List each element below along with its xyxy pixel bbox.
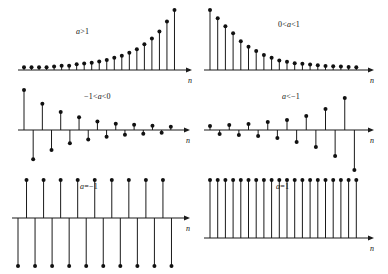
stem-dot <box>324 178 328 182</box>
stem-dot <box>95 120 99 124</box>
label-prefix: 0< <box>278 20 287 29</box>
stem-dot <box>52 64 56 68</box>
label-suffix: <−1 <box>286 92 300 101</box>
stem-dot <box>352 168 356 172</box>
exponential-sequences-figure: a>1n0<a<1n−1<a<0na<−1na=−1na=1n <box>0 0 388 274</box>
panel-a-lt-neg1: a<−1n <box>196 86 382 174</box>
stem-dot <box>300 178 304 182</box>
stem-dot <box>237 133 241 137</box>
stem-dot <box>110 178 114 182</box>
panel-a-eq-neg1-plot <box>8 176 194 270</box>
stem-dot <box>208 8 212 12</box>
x-axis-label: n <box>186 136 190 145</box>
stem-dot <box>308 63 312 67</box>
x-axis-label: n <box>186 224 190 233</box>
stem-dot <box>141 132 145 136</box>
stem-dot <box>22 65 26 69</box>
stem-dot <box>262 53 266 57</box>
panel-a-eq-1: a=1n <box>196 176 382 270</box>
stem-dot <box>50 264 54 268</box>
stem-dot <box>247 178 251 182</box>
stem-dot <box>216 16 220 20</box>
stem-dot <box>142 42 146 46</box>
panel-a-eq-neg1: a=−1n <box>8 176 194 270</box>
stem-dot <box>331 178 335 182</box>
label-prefix: −1< <box>84 92 98 101</box>
stem-dot <box>77 115 81 119</box>
stem-dot <box>123 133 127 137</box>
x-axis-arrow <box>186 67 192 72</box>
stem-dot <box>247 45 251 49</box>
panel-a-eq-neg1-label: a=−1 <box>80 182 98 191</box>
label-suffix: >1 <box>80 27 89 36</box>
stem-dot <box>254 49 258 53</box>
x-axis-arrow <box>368 235 374 240</box>
stem-dot <box>347 178 351 182</box>
stem-dot <box>293 178 297 182</box>
panel-a-gt-1-plot <box>8 6 194 84</box>
x-axis-label: n <box>188 76 192 85</box>
stem-dot <box>324 107 328 111</box>
stem-dot <box>150 37 154 41</box>
panel-neg1-lt-a-lt-0: −1<a<0n <box>8 86 194 170</box>
stem-dot <box>339 65 343 69</box>
stem-dot <box>308 178 312 182</box>
stem-dot <box>293 61 297 65</box>
stem-dot <box>218 132 222 136</box>
stem-dot <box>295 140 299 144</box>
stem-dot <box>67 64 71 68</box>
stem-dot <box>231 178 235 182</box>
label-suffix: =1 <box>280 182 289 191</box>
stem-dot <box>90 61 94 65</box>
stem-dot <box>277 58 281 62</box>
stem-dot <box>169 125 173 129</box>
stem-dot <box>97 59 101 63</box>
stem-dot <box>37 65 41 69</box>
panel-a-lt-neg1-label: a<−1 <box>282 92 300 101</box>
stem-dot <box>339 178 343 182</box>
stem-dot <box>67 264 71 268</box>
stem-dot <box>157 29 161 33</box>
stem-dot <box>16 264 20 268</box>
stem-dot <box>208 178 212 182</box>
stem-dot <box>333 154 337 158</box>
stem-dot <box>343 96 347 100</box>
stem-dot <box>227 123 231 127</box>
panel-a-gt-1-label: a>1 <box>76 27 89 36</box>
x-axis-label: n <box>370 244 374 253</box>
stem-dot <box>324 64 328 68</box>
stem-dot <box>31 157 35 161</box>
x-axis-arrow <box>368 67 374 72</box>
stem-dot <box>82 62 86 66</box>
stem-dot <box>120 54 124 58</box>
x-axis-arrow <box>184 127 190 132</box>
stem-dot <box>223 178 227 182</box>
stem-dot <box>50 148 54 152</box>
stem-dot <box>160 131 164 135</box>
stem-dot <box>216 178 220 182</box>
stem-dot <box>354 65 358 69</box>
stem-dot <box>105 135 109 139</box>
stem-dot <box>172 8 176 12</box>
stem-dot <box>314 145 318 149</box>
stem-dot <box>59 178 63 182</box>
stem-dot <box>68 141 72 145</box>
stem-dot <box>256 134 260 138</box>
label-suffix: <0 <box>102 92 111 101</box>
stem-dot <box>75 62 79 66</box>
x-axis-label: n <box>370 136 374 145</box>
stem-dot <box>101 264 105 268</box>
stem-dot <box>127 178 131 182</box>
stem-dot <box>239 39 243 43</box>
stem-dot <box>347 65 351 69</box>
stem-dot <box>105 58 109 62</box>
stem-dot <box>304 114 308 118</box>
panel-a-gt-1: a>1n <box>8 6 194 84</box>
stem-dot <box>42 178 46 182</box>
stem-dot <box>316 63 320 67</box>
label-suffix: <1 <box>291 20 300 29</box>
stem-dot <box>22 88 26 92</box>
panel-a-eq-1-label: a=1 <box>276 182 289 191</box>
x-axis-arrow <box>184 215 190 220</box>
stem-dot <box>40 102 44 106</box>
